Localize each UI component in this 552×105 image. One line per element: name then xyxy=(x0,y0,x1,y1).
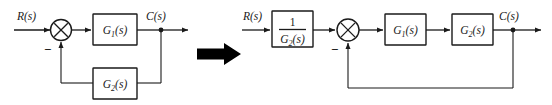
left-forward-block-arg: (s) xyxy=(115,24,127,37)
left-input-label: R(s) xyxy=(16,10,36,23)
right-feedback-sign: − xyxy=(331,42,338,57)
transition-arrow xyxy=(197,43,241,65)
left-diagram-group xyxy=(14,14,188,99)
diagram-canvas: R(s) C(s) − G1(s) G2(s) R(s) C(s) − 1 G2… xyxy=(0,0,552,105)
right-output-label: C(s) xyxy=(499,10,519,23)
left-summing-junction xyxy=(51,20,72,41)
prefilter-den-arg: (s) xyxy=(293,33,305,46)
left-feedback-sign: − xyxy=(44,42,51,57)
right-input-label: R(s) xyxy=(242,10,262,23)
left-feedback-block-arg: (s) xyxy=(115,78,127,91)
left-output-label: C(s) xyxy=(146,10,166,23)
right-diagram-group xyxy=(242,11,541,88)
right-summing-junction xyxy=(337,19,359,41)
block-diagram-figure: R(s) C(s) − G1(s) G2(s) R(s) C(s) − 1 G2… xyxy=(0,0,552,105)
right-fb1-arg: (s) xyxy=(406,24,418,37)
right-arrow-icon xyxy=(197,43,241,65)
prefilter-numerator: 1 xyxy=(290,16,296,28)
right-fb2-arg: (s) xyxy=(473,24,485,37)
